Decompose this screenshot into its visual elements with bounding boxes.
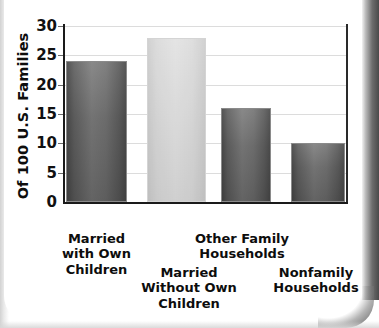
plot-area — [64, 26, 347, 202]
y-tick-label-25: 25 — [17, 48, 57, 63]
y-axis-line — [63, 24, 65, 204]
y-tick-label-20: 20 — [17, 78, 57, 93]
y-tick-label-0: 0 — [17, 195, 57, 210]
category-label-married-without-own-children: Married Without Own Children — [140, 265, 238, 311]
bar-married-with-own-children[interactable] — [66, 61, 127, 202]
category-label-married-with-own-children: Married with Own Children — [59, 231, 134, 277]
bar-chart: Of 100 U.S. Families 30 25 20 15 10 5 0 — [0, 0, 379, 328]
y-tick-label-15: 15 — [17, 107, 57, 122]
category-label-line-3: Children — [140, 296, 238, 311]
scanned-page-surface: Of 100 U.S. Families 30 25 20 15 10 5 0 — [0, 0, 379, 328]
y-tick-label-5: 5 — [17, 166, 57, 181]
category-label-line-1: Married — [140, 265, 238, 280]
category-label-line-3: Children — [59, 262, 134, 277]
category-label-line-2: with Own — [59, 246, 134, 261]
category-label-line-1: Married — [59, 231, 134, 246]
bar-married-without-own-children[interactable] — [147, 38, 206, 202]
plot-right-edge — [346, 24, 348, 204]
category-label-line-2: Households — [194, 246, 290, 261]
category-label-line-1: Nonfamily — [270, 265, 362, 280]
y-tick-label-30: 30 — [17, 19, 57, 34]
page-bottom-shading — [0, 321, 379, 328]
category-label-line-1: Other Family — [194, 231, 290, 246]
bar-other-family-households[interactable] — [221, 108, 271, 202]
category-label-other-family-households: Other Family Households — [194, 231, 290, 262]
category-label-line-2: Without Own — [140, 280, 238, 295]
bar-nonfamily-households[interactable] — [291, 143, 345, 202]
x-axis-line — [63, 202, 348, 204]
y-tick-label-10: 10 — [17, 136, 57, 151]
